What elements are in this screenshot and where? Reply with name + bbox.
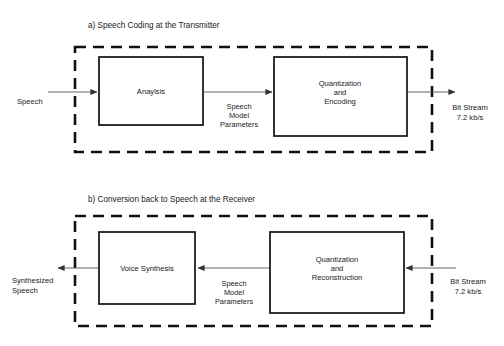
block-quantization-encoding-label-line1: Quantization: [319, 79, 362, 88]
speech-input-label: Speech: [17, 97, 43, 106]
speech-model-parameters-receiver-label-line1: Speech: [221, 279, 246, 288]
synthesized-speech-output-label-line1: Synthesized: [12, 276, 53, 285]
block-quantization-encoding-label-line2: and: [334, 88, 347, 97]
speech-model-parameters-receiver-label-line3: Parameters: [215, 297, 254, 306]
block-analysis-label: Anaylsis: [137, 87, 165, 96]
block-diagram: a) Speech Coding at the Transmitter Spee…: [0, 0, 504, 346]
block-quantization-reconstruction-label-line1: Quantization: [316, 255, 359, 264]
panel-transmitter-title: a) Speech Coding at the Transmitter: [88, 21, 220, 30]
speech-model-parameters-receiver-label-line2: Model: [224, 288, 244, 297]
bit-stream-output-label-line2: 7.2 kb/s: [457, 113, 484, 122]
bit-stream-output-label-line1: Bit Stream: [452, 103, 487, 112]
speech-model-parameters-label-line2: Model: [229, 111, 249, 120]
block-voice-synthesis-label: Voice Synthesis: [120, 264, 174, 273]
block-quantization-reconstruction-label-line2: and: [331, 264, 344, 273]
block-quantization-encoding-label-line3: Encoding: [324, 97, 356, 106]
bit-stream-input-label-line1: Bit Stream: [450, 277, 485, 286]
synthesized-speech-output-label-line2: Speech: [12, 286, 38, 295]
panel-receiver-title: b) Conversion back to Speech at the Rece…: [88, 195, 255, 204]
block-quantization-reconstruction-label-line3: Reconstruction: [312, 273, 363, 282]
bit-stream-input-label-line2: 7.2 kb/s: [455, 287, 482, 296]
speech-model-parameters-label-line3: Parameters: [220, 120, 259, 129]
speech-model-parameters-label-line1: Speech: [226, 102, 251, 111]
